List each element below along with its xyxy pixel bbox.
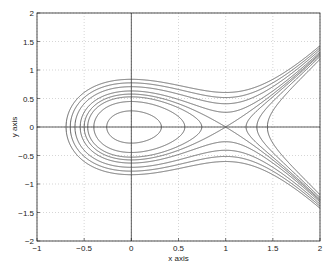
svg-text:−2: −2: [25, 237, 35, 246]
svg-text:1.5: 1.5: [267, 244, 279, 253]
svg-text:1: 1: [223, 244, 228, 253]
svg-text:−0.5: −0.5: [18, 152, 34, 161]
x-tick-labels: −1−0.500.511.52: [32, 238, 322, 253]
svg-text:−1.5: −1.5: [18, 209, 34, 218]
svg-text:2: 2: [30, 9, 35, 18]
svg-text:0: 0: [30, 123, 35, 132]
x-axis-label: x axis: [168, 254, 188, 263]
svg-text:0: 0: [129, 244, 134, 253]
svg-text:1: 1: [30, 66, 35, 75]
y-axis-label: y axis: [10, 117, 19, 137]
reference-axes: [37, 13, 320, 241]
svg-text:−1: −1: [25, 180, 35, 189]
svg-text:2: 2: [318, 244, 323, 253]
svg-text:1.5: 1.5: [23, 38, 35, 47]
svg-text:0.5: 0.5: [23, 95, 35, 104]
svg-text:0.5: 0.5: [173, 244, 185, 253]
svg-text:−0.5: −0.5: [76, 244, 92, 253]
phase-portrait-chart: −1−0.500.511.52 −2−1.5−1−0.500.511.52 x …: [0, 0, 334, 270]
